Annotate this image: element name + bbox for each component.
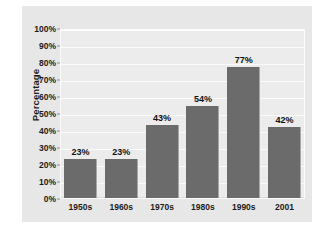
y-axis-tick-label: 80% xyxy=(20,58,56,68)
bar[interactable] xyxy=(186,106,219,198)
bar-value-label: 77% xyxy=(224,55,264,65)
y-axis-tick-label: 90% xyxy=(20,41,56,51)
bars-group: 23%23%43%54%77%42% xyxy=(60,29,305,199)
x-axis-tick-label: 1980s xyxy=(181,202,225,212)
y-axis-tick-label: 0% xyxy=(20,194,56,204)
y-axis-tick-label: 60% xyxy=(20,92,56,102)
x-axis-tick-label: 1990s xyxy=(222,202,266,212)
bar-value-label: 23% xyxy=(60,147,100,157)
bar-value-label: 43% xyxy=(142,113,182,123)
y-axis-tick-label: 30% xyxy=(20,143,56,153)
bar-chart: Percentage 0%10%20%30%40%50%60%70%80%90%… xyxy=(0,0,323,232)
bar-value-label: 42% xyxy=(265,115,305,125)
y-axis-tick-labels: 0%10%20%30%40%50%60%70%80%90%100% xyxy=(16,29,56,199)
y-axis-tick-label: 20% xyxy=(20,160,56,170)
y-axis-tick-label: 70% xyxy=(20,75,56,85)
y-axis-tick-label: 40% xyxy=(20,126,56,136)
x-axis-tick-label: 1950s xyxy=(58,202,102,212)
x-axis-tick-label: 2001 xyxy=(263,202,307,212)
y-axis-tick-label: 10% xyxy=(20,177,56,187)
bar[interactable] xyxy=(64,159,97,198)
bar[interactable] xyxy=(268,127,301,198)
bar[interactable] xyxy=(146,125,179,198)
x-axis-tick-label: 1960s xyxy=(99,202,143,212)
bar[interactable] xyxy=(105,159,138,198)
x-axis-tick-label: 1970s xyxy=(140,202,184,212)
y-axis-tick-label: 50% xyxy=(20,109,56,119)
bar-value-label: 23% xyxy=(101,147,141,157)
x-axis-tick-labels: 1950s1960s1970s1980s1990s2001 xyxy=(60,202,305,218)
bar-value-label: 54% xyxy=(183,94,223,104)
bar[interactable] xyxy=(227,67,260,198)
y-axis-tick-label: 100% xyxy=(20,24,56,34)
